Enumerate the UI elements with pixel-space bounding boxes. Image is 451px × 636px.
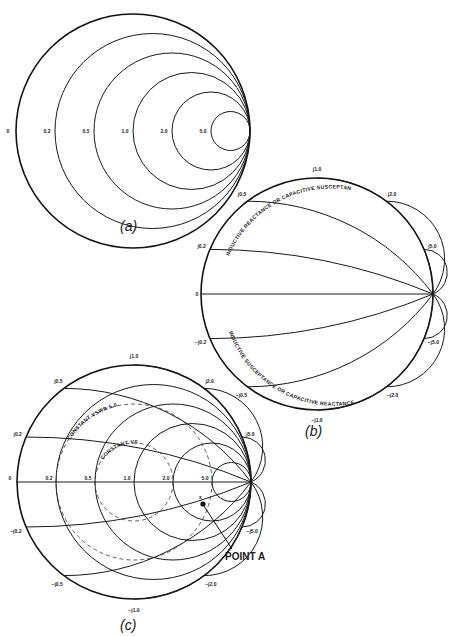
reactance-label-positive: j0.5 (53, 378, 63, 384)
vswr-5-label: CONSTANT VSWR 5.0 (66, 402, 118, 441)
point-a-marker (200, 501, 205, 506)
panel-c-smith-chart: 00.20.51.02.05.0j0.2−j0.2j0.5−j0.5j1.0−j… (9, 353, 266, 613)
reactance-label-negative: −j5.0 (428, 339, 439, 345)
resistance-label: 2.0 (161, 128, 168, 134)
panel-a-resistance-circles: 00.20.51.02.05.0 (7, 14, 250, 248)
reactance-arc-negative (210, 294, 433, 339)
reactance-label-negative: −j0.5 (52, 581, 63, 587)
reactance-label-positive: j0.2 (196, 243, 206, 249)
panel-b-reactance-arcs: 0j0.2−j0.2j0.5−j0.5j1.0−j1.0j2.0−j2.0j5.… (195, 166, 447, 423)
upper-arc-text: INDUCTIVE REACTANCE OR CAPACITIVE SUSCEP… (0, 0, 352, 256)
smith-chart-figure: 00.20.51.02.05.0 (a) 0j0.2−j0.2j0.5−j0.5… (0, 0, 451, 636)
reactance-label-positive: j2.0 (387, 191, 397, 197)
resistance-label: 0 (7, 128, 10, 134)
reactance-label-negative: −j5.0 (247, 528, 258, 534)
reactance-arc-negative (247, 294, 433, 387)
reactance-label-negative: −j1.0 (128, 607, 139, 613)
reactance-label-positive: j0.2 (13, 431, 23, 437)
reactance-arc-positive (317, 178, 433, 294)
resistance-label: 5.0 (200, 128, 207, 134)
resistance-label: 1.0 (124, 475, 131, 481)
caption-c: (c) (120, 617, 136, 633)
resistance-label: 0.5 (85, 475, 92, 481)
point-a-leader-line (204, 506, 232, 549)
reactance-label-positive: j5.0 (427, 243, 437, 249)
resistance-label: 2.0 (163, 475, 170, 481)
reactance-label-negative: −j2.0 (205, 581, 216, 587)
caption-b: (b) (305, 423, 322, 439)
reactance-label-positive: j1.0 (312, 166, 322, 172)
resistance-label: 0.5 (83, 128, 90, 134)
reactance-label-positive: j2.0 (204, 378, 214, 384)
resistance-label: 1.0 (122, 128, 129, 134)
resistance-label: 0.2 (44, 128, 51, 134)
reactance-label-negative: −j0.2 (10, 528, 21, 534)
reactance-label-negative: −j0.2 (195, 339, 206, 345)
point-a-x-mark: x (199, 494, 202, 500)
lower-arc-text: INDUCTIVE SUSCEPTANCE OR CAPACITIVE REAC… (228, 330, 355, 407)
reactance-label-negative: −j0.5 (236, 392, 247, 398)
caption-a: (a) (120, 218, 137, 234)
resistance-label: 5.0 (202, 475, 209, 481)
resistance-circle (133, 73, 250, 190)
reactance-label-positive: j0.5 (237, 191, 247, 197)
resistance-label: 0 (9, 475, 12, 481)
reactance-arc-positive (210, 249, 433, 294)
resistance-circle (211, 112, 250, 151)
resistance-label: 0.2 (46, 475, 53, 481)
point-a-label: POINT A (225, 551, 265, 562)
reactance-arc-negative (317, 294, 433, 410)
reactance-label-negative: −j2.0 (387, 392, 398, 398)
center-label: 0 (196, 291, 199, 297)
reactance-arc-positive (247, 201, 433, 294)
reactance-label-positive: j1.0 (129, 353, 139, 359)
reactance-label-positive: j5.0 (245, 431, 255, 437)
